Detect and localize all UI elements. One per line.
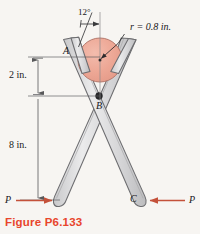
- point-c-label: C: [130, 194, 137, 204]
- figure-caption: Figure P6.133: [5, 216, 82, 228]
- angle-indicator-12deg: [80, 20, 99, 28]
- figure-container: 12° r = 0.8 in. A B C 2 in. 8 in. P P Fi…: [0, 0, 200, 234]
- dimension-2in: [33, 58, 43, 94]
- force-p-left-label: P: [5, 195, 11, 205]
- angle-label: 12°: [78, 8, 91, 17]
- dimension-2in-label: 2 in.: [9, 70, 27, 80]
- force-p-right-label: P: [189, 195, 195, 205]
- dimension-8in-label: 8 in.: [9, 140, 27, 150]
- figure-drawing: [0, 0, 200, 234]
- radius-label: r = 0.8 in.: [130, 22, 171, 32]
- point-a-label: A: [63, 46, 69, 56]
- point-b-label: B: [96, 101, 102, 111]
